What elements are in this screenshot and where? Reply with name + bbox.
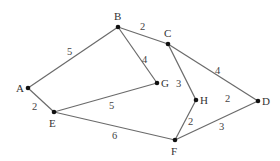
node-h-dot [194, 98, 199, 103]
node-label: H [200, 94, 208, 106]
edge-weight-label: 2 [188, 116, 193, 127]
floating-weight-label: 2 [225, 93, 230, 104]
edge-weight-label: 4 [215, 65, 221, 76]
node-label: C [164, 27, 171, 39]
edge-weight-label: 3 [176, 78, 181, 89]
node-label: G [161, 77, 169, 89]
node-label: E [49, 117, 56, 129]
node-e-dot [52, 110, 57, 115]
edge-weight-label: 5 [109, 100, 114, 111]
node-label: F [171, 145, 177, 157]
node-label: D [262, 95, 270, 107]
node-a-dot [26, 86, 31, 91]
graph-diagram: 52245634232AEBCGHDF [0, 0, 280, 161]
node-d-dot [256, 99, 261, 104]
edge-b-g [118, 27, 157, 83]
edge-weight-label: 2 [32, 101, 37, 112]
edge-e-g [54, 83, 157, 112]
edge-weight-label: 4 [142, 54, 148, 65]
edge-weight-label: 5 [67, 46, 72, 57]
edge-a-b [28, 27, 118, 88]
edge-c-d [168, 44, 258, 101]
edge-weight-label: 2 [140, 21, 145, 32]
node-c-dot [166, 42, 171, 47]
node-g-dot [155, 81, 160, 86]
edge-weight-label: 6 [112, 130, 117, 141]
edge-weight-label: 3 [219, 121, 224, 132]
node-f-dot [173, 138, 178, 143]
node-b-dot [116, 25, 121, 30]
node-label: B [114, 10, 121, 22]
graph-svg: 52245634232AEBCGHDF [0, 0, 280, 161]
node-label: A [16, 82, 24, 94]
